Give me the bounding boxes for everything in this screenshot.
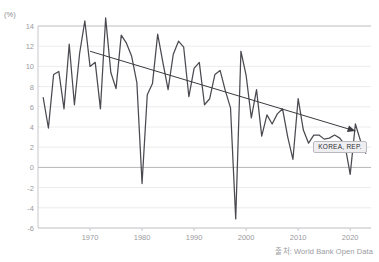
y-tick-label: 10 bbox=[26, 62, 34, 71]
x-tick-label: 1970 bbox=[82, 233, 99, 242]
y-tick-label: -6 bbox=[27, 224, 34, 233]
x-tick-label: 1990 bbox=[186, 233, 203, 242]
data-line-korea-rep bbox=[43, 18, 366, 219]
trend-line bbox=[90, 51, 355, 131]
cropped-title-text bbox=[62, 0, 362, 3]
y-tick-label: 14 bbox=[26, 22, 34, 31]
gdp-growth-line-chart bbox=[38, 26, 371, 228]
y-axis-unit-label: (%) bbox=[4, 10, 16, 19]
series-label-box[interactable]: KOREA, REP. bbox=[313, 141, 366, 154]
y-tick-label: 0 bbox=[30, 163, 34, 172]
x-tick-label: 2010 bbox=[290, 233, 307, 242]
plot-area: 14121086420-2-4-6 1970198019902000201020… bbox=[38, 26, 371, 228]
y-tick-label: 4 bbox=[30, 123, 34, 132]
trend-arrow-head bbox=[347, 125, 355, 132]
chart-root: (%) 14121086420-2-4-6 197019801990200020… bbox=[0, 0, 379, 262]
x-tick-label: 2020 bbox=[342, 233, 359, 242]
y-tick-label: 8 bbox=[30, 82, 34, 91]
source-caption: 출처: World Bank Open Data bbox=[275, 245, 373, 256]
y-tick-label: -4 bbox=[27, 203, 34, 212]
y-tick-label: -2 bbox=[27, 183, 34, 192]
y-tick-label: 6 bbox=[30, 102, 34, 111]
y-tick-label: 12 bbox=[26, 42, 34, 51]
y-tick-label: 2 bbox=[30, 143, 34, 152]
x-tick-label: 1980 bbox=[134, 233, 151, 242]
x-tick-label: 2000 bbox=[238, 233, 255, 242]
